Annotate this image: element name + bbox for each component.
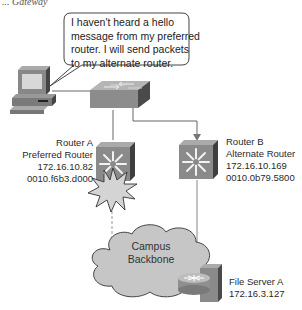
router-a-mac: 0010.f6b3.d000 [22,173,93,185]
bubble-line: I haven't heard a hello [71,16,200,30]
router-b-role: Alternate Router [226,148,295,160]
speech-bubble-text: I haven't heard a hello message from my … [71,16,200,70]
file-server-name: File Server A [229,276,284,288]
bubble-line: message from my preferred [71,30,200,44]
router-b-ip: 172.16.10.169 [226,160,295,172]
router-a-name: Router A [22,137,93,149]
router-a-ip: 172.16.10.82 [22,161,93,173]
router-b-name: Router B [226,136,295,148]
cloud-line: Campus [111,240,191,253]
bubble-line: router. I will send packets [71,43,200,57]
pc-icon [10,66,56,114]
switch-router-b-link [133,100,197,138]
file-server-ip: 172.16.3.127 [229,288,284,300]
bubble-line: to my alternate router. [71,57,200,71]
router-a-role: Preferred Router [22,149,93,161]
file-server-label: File Server A 172.16.3.127 [229,276,284,300]
router-b-icon [179,140,218,179]
switch-icon [90,81,150,108]
cloud-line: Backbone [111,253,191,266]
cloud-label: Campus Backbone [111,240,191,266]
router-a-label: Router A Preferred Router 172.16.10.82 0… [22,137,93,185]
arrow-head-icon [193,134,201,141]
router-b-mac: 0010.0b79.5800 [226,172,295,184]
router-b-label: Router B Alternate Router 172.16.10.169 … [226,136,295,184]
